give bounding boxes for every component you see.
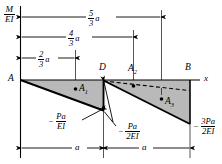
dim-label-four-thirds-a: 4 3 a	[68, 29, 80, 47]
leader-moment-at-d-right	[105, 112, 117, 126]
centroid-dot-a2	[132, 84, 136, 88]
value-label-moment-at-d-left: − Pa EI	[48, 112, 67, 130]
area-label-a1: A1	[79, 84, 88, 95]
axis-vertical-label: M EI	[4, 5, 15, 24]
area-label-a2: A2	[128, 64, 137, 75]
diagram-canvas	[0, 0, 222, 164]
leader-moment-at-d-left	[82, 110, 101, 120]
value-label-moment-at-b: − 3Pa 2EI	[193, 117, 216, 135]
dim-label-five-thirds-a: 5 3 a	[88, 9, 100, 27]
moment-diagram-figure: M EI x 5 3 a 4 3 a 2 3	[0, 0, 222, 164]
dim-label-span-right: a	[142, 143, 147, 152]
dim-label-two-thirds-a: 2 3 a	[38, 50, 50, 68]
centroid-dot-a1	[74, 87, 78, 91]
point-label-d: D	[99, 63, 106, 73]
area-label-a3: A3	[165, 97, 174, 108]
point-label-b: B	[185, 63, 191, 73]
value-label-moment-at-d-right: − Pa 2EI	[118, 122, 140, 140]
dim-label-span-left: a	[75, 143, 80, 152]
axis-horizontal-label: x	[204, 74, 208, 83]
point-label-a: A	[8, 74, 14, 84]
leader-moment-at-d-upper	[104, 82, 113, 122]
centroid-dot-a3	[160, 97, 164, 101]
